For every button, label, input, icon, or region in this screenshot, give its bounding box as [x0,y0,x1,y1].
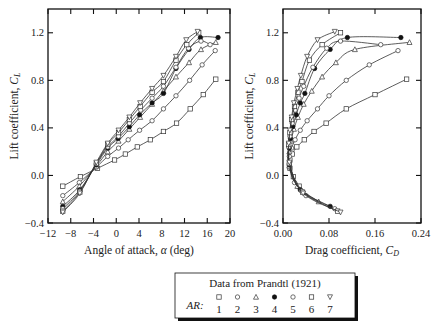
data-point [123,152,127,156]
x-tick-label: 0.24 [412,228,431,239]
data-point [396,48,400,52]
y-axis-title-subscript: L [248,72,257,78]
x-tick-label: 20 [225,228,236,239]
data-point [311,65,315,69]
y-tick-label: 1.2 [31,27,44,38]
y-tick-label: −0.4 [25,218,45,229]
x-tick-label: 8 [159,228,164,239]
x-tick-label: 0.16 [366,228,384,239]
x-tick-label: 0.00 [274,228,292,239]
legend-prefix: AR: [185,299,203,311]
legend-label: 2 [235,303,241,315]
data-point [367,63,371,67]
series-line [290,79,407,186]
data-point [312,129,316,133]
y-axis-title: Lift coefficient, CL [8,72,22,160]
data-point [199,39,203,43]
data-point [309,88,314,93]
data-point [300,79,304,83]
data-point [315,107,319,111]
legend-label: 7 [327,303,333,315]
x-axis-title: Drag coefficient, CD [305,244,399,258]
y-axis-title: Lift coefficient, CL [243,72,257,160]
data-point [407,40,412,45]
x-tick-label: −12 [40,228,56,239]
data-point [332,29,337,34]
legend-marker [291,295,295,299]
legend: Data from Prandtl (1921)AR:1234567 [175,273,358,321]
legend-label: 5 [290,303,296,315]
data-point [61,193,65,197]
legend-entry-2: 2 [235,295,241,315]
series-ar-2 [287,48,400,197]
data-point [379,42,383,46]
data-point [338,39,342,43]
series-ar-7 [286,29,343,215]
x-tick-label: 0 [114,228,119,239]
data-point [404,77,408,81]
data-point [187,78,191,82]
data-point [112,158,116,162]
data-point [298,101,302,105]
legend-marker [235,295,239,299]
data-point [135,145,139,149]
x-tick-label: −8 [65,228,76,239]
data-point [61,184,65,188]
x-tick-label: 0.08 [320,228,338,239]
data-point [201,92,205,96]
data-point [303,91,307,95]
y-tick-label: 0.8 [266,75,279,86]
series-line [63,42,216,201]
data-point [324,121,328,125]
data-point [345,35,349,39]
data-point [174,121,178,125]
data-point [185,42,189,46]
data-point [150,119,154,123]
data-point [213,40,218,45]
lift-vs-alpha-plot: −12−8−4048121620−0.40.00.40.81.2Angle of… [8,9,235,257]
data-point [174,94,178,98]
legend-marker [309,295,313,299]
data-point [150,101,154,105]
data-point [161,79,165,83]
data-point [293,138,297,142]
x-axis-title-text: Angle of attack, [84,244,161,257]
data-point [327,94,331,98]
x-tick-label: 16 [202,228,213,239]
data-point [198,47,203,52]
data-point [213,48,217,52]
data-point [161,107,165,111]
legend-marker [217,295,221,299]
data-point [188,107,192,111]
data-point [302,138,306,142]
figure: −12−8−4048121620−0.40.00.40.81.2Angle of… [0,0,434,332]
legend-entry-5: 5 [290,295,296,315]
series-ar-2 [61,48,218,197]
x-tick-label: 12 [179,228,190,239]
data-point [216,35,220,39]
data-point [325,46,329,50]
legend-marker [272,295,276,299]
data-point [344,107,348,111]
data-point [106,154,110,158]
y-tick-label: 0.4 [31,122,45,133]
x-axis-title: Angle of attack, α (deg) [84,244,194,257]
data-point [200,63,204,67]
data-point [126,138,130,142]
y-axis-title-text: Lift coefficient, [243,85,256,160]
data-point [161,84,165,88]
y-tick-label: 1.2 [266,27,279,38]
data-point [305,119,309,123]
legend-entry-6: 6 [309,295,315,315]
y-axis-title-text: Lift coefficient, [8,85,21,160]
data-point [298,73,303,78]
series-ar-6 [287,31,343,214]
data-point [174,65,178,69]
data-point [338,31,342,35]
legend-entry-4: 4 [272,295,278,315]
series-ar-4 [287,35,403,208]
y-tick-label: 0.4 [266,122,280,133]
data-point [298,128,302,132]
data-point [214,77,218,81]
x-axis-title-unit: (deg) [167,244,194,257]
